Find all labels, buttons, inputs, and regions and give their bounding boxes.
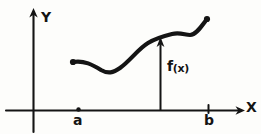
tick-label-b: b — [204, 113, 214, 127]
x-axis-label: X — [246, 100, 257, 114]
curve-end-dot — [204, 16, 210, 22]
function-graph-sketch: Y X a b f(x) — [0, 0, 261, 134]
function-label-argument: (x) — [173, 62, 189, 75]
function-label: f(x) — [167, 59, 189, 74]
curve-start-dot — [70, 59, 76, 65]
y-axis-label: Y — [41, 10, 51, 24]
tick-label-a: a — [73, 113, 82, 127]
sketch-svg — [0, 0, 261, 134]
